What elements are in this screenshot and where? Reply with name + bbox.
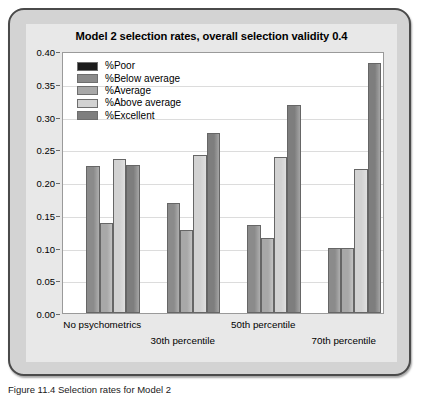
bar[interactable]: [354, 169, 367, 313]
bar[interactable]: [368, 63, 381, 313]
legend-label: %Poor: [105, 61, 135, 71]
bar[interactable]: [86, 166, 99, 313]
legend-swatch: [77, 62, 98, 71]
bar-group: [224, 53, 305, 313]
chart-legend: %Poor%Below average%Average%Above averag…: [77, 60, 181, 122]
y-tick-label: 0.30: [37, 112, 56, 123]
legend-swatch: [77, 99, 98, 108]
y-tick-mark: [56, 249, 60, 250]
bar[interactable]: [261, 238, 274, 313]
bar[interactable]: [113, 159, 126, 313]
y-tick-mark: [56, 183, 60, 184]
y-tick-label: 0.35: [37, 79, 56, 90]
y-tick-label: 0.25: [37, 145, 56, 156]
x-tick-label: 70th percentile: [312, 335, 376, 346]
bar[interactable]: [180, 230, 193, 313]
y-tick-label: 0.00: [37, 309, 56, 320]
y-tick-mark: [56, 85, 60, 86]
bar[interactable]: [328, 248, 341, 314]
legend-label: %Excellent: [105, 111, 154, 121]
y-tick-label: 0.15: [37, 210, 56, 221]
legend-item[interactable]: %Excellent: [77, 110, 181, 122]
plot-area: %Poor%Below average%Average%Above averag…: [62, 52, 384, 314]
y-tick-label: 0.40: [37, 47, 56, 58]
y-tick-mark: [56, 281, 60, 282]
bar[interactable]: [247, 225, 260, 313]
y-tick-mark: [56, 216, 60, 217]
figure-panel: Model 2 selection rates, overall selecti…: [26, 24, 397, 362]
legend-swatch: [77, 74, 98, 83]
legend-label: %Above average: [105, 98, 181, 108]
y-tick-mark: [56, 150, 60, 151]
y-tick-label: 0.20: [37, 178, 56, 189]
bar-group: [305, 53, 386, 313]
bar[interactable]: [341, 248, 354, 314]
y-tick-mark: [56, 52, 60, 53]
bar[interactable]: [100, 223, 113, 313]
legend-item[interactable]: %Poor: [77, 60, 181, 72]
y-tick-mark: [56, 118, 60, 119]
x-tick-label: 50th percentile: [231, 319, 295, 330]
legend-item[interactable]: %Above average: [77, 97, 181, 109]
bar[interactable]: [167, 203, 180, 313]
figure-caption: Figure 11.4 Selection rates for Model 2: [8, 384, 418, 403]
legend-label: %Below average: [105, 74, 180, 84]
y-tick-mark: [56, 314, 60, 315]
legend-swatch: [77, 111, 98, 120]
legend-swatch: [77, 86, 98, 95]
y-tick-label: 0.05: [37, 276, 56, 287]
x-tick-label: 30th percentile: [151, 335, 215, 346]
bar[interactable]: [207, 133, 220, 313]
bar[interactable]: [287, 105, 300, 313]
x-axis: No psychometrics30th percentile50th perc…: [62, 316, 384, 358]
legend-item[interactable]: %Below average: [77, 72, 181, 84]
bar[interactable]: [193, 155, 206, 314]
y-tick-label: 0.10: [37, 243, 56, 254]
x-tick-label: No psychometrics: [63, 319, 141, 330]
legend-label: %Average: [105, 86, 151, 96]
y-axis: 0.000.050.100.150.200.250.300.350.40: [26, 52, 60, 314]
legend-item[interactable]: %Average: [77, 85, 181, 97]
bar[interactable]: [274, 157, 287, 313]
chart-title: Model 2 selection rates, overall selecti…: [26, 30, 397, 42]
figure-frame: Model 2 selection rates, overall selecti…: [8, 8, 411, 376]
bar[interactable]: [126, 165, 139, 313]
